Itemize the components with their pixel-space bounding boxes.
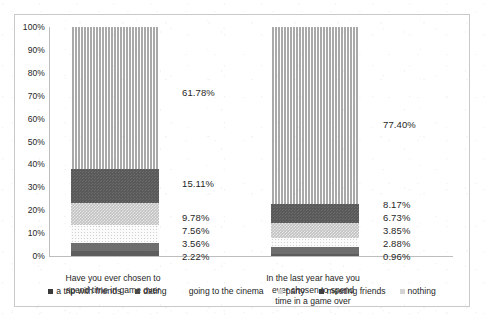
value-label-nothing-1: 77.40%: [383, 119, 416, 130]
chart-legend: a trip with friends dating going to the …: [15, 286, 469, 296]
y-tick-label-80: 80%: [28, 68, 45, 78]
value-label-nothing-0: 61.78%: [182, 87, 215, 98]
bar-segment-party[interactable]: [271, 223, 359, 238]
y-tick-label-50: 50%: [28, 137, 45, 147]
bar-segment-dating[interactable]: [71, 243, 159, 251]
y-tick-label-60: 60%: [28, 114, 45, 124]
y-tick-label-10: 10%: [28, 228, 45, 238]
legend-label-a-trip-with-friends: a trip with friends: [56, 286, 121, 296]
legend-swatch-icon-dating: [135, 289, 140, 294]
value-label-cinema-1: 3.85%: [383, 225, 410, 236]
bar-segment-nothing[interactable]: [271, 27, 359, 204]
legend-swatch-icon-meeting-friends: [319, 289, 324, 294]
bar-segment-trip-with-friends[interactable]: [271, 254, 359, 256]
category-label-1-line-0: In the last year have you: [238, 273, 388, 285]
legend-swatch-icon-going-to-the-cinema: [181, 289, 186, 294]
plot-area: 0% 10% 20% 30% 40% 50% 60% 70% 80% 90% 1…: [49, 27, 453, 256]
category-label-0-line-0: Have you ever chosen to: [38, 273, 188, 285]
value-label-party-0: 9.78%: [182, 212, 209, 223]
bar-category-1[interactable]: [271, 27, 359, 256]
legend-item-meeting-friends[interactable]: meeting friends: [319, 286, 386, 296]
bar-category-0[interactable]: [71, 27, 159, 256]
value-label-meeting-friends-0: 15.11%: [182, 178, 214, 189]
y-tick-label-100: 100%: [23, 22, 45, 32]
value-label-party-1: 6.73%: [383, 212, 410, 223]
legend-item-dating[interactable]: dating: [135, 286, 166, 296]
bar-segment-party[interactable]: [71, 203, 159, 225]
bar-segment-going-to-cinema[interactable]: [71, 225, 159, 242]
legend-label-going-to-the-cinema: going to the cinema: [189, 286, 264, 296]
value-label-cinema-0: 7.56%: [182, 225, 209, 236]
bar-segment-trip-with-friends[interactable]: [71, 251, 159, 256]
y-tick-label-70: 70%: [28, 91, 45, 101]
bar-segment-going-to-cinema[interactable]: [271, 238, 359, 247]
value-label-dating-0: 3.56%: [182, 238, 209, 249]
y-tick-label-90: 90%: [28, 45, 45, 55]
legend-label-dating: dating: [143, 286, 166, 296]
legend-item-going-to-the-cinema[interactable]: going to the cinema: [181, 286, 264, 296]
value-label-dating-1: 2.88%: [383, 238, 410, 249]
legend-label-party: party: [286, 286, 305, 296]
y-tick-label-40: 40%: [28, 159, 45, 169]
value-label-meeting-friends-1: 8.17%: [383, 199, 410, 210]
legend-swatch-icon-nothing: [400, 289, 405, 294]
y-tick-label-0: 0%: [33, 251, 46, 261]
legend-swatch-icon-party: [278, 289, 283, 294]
chart-frame: 0% 10% 20% 30% 40% 50% 60% 70% 80% 90% 1…: [14, 14, 470, 307]
legend-item-nothing[interactable]: nothing: [400, 286, 436, 296]
value-label-trip-1: 0.96%: [383, 251, 410, 262]
legend-label-meeting-friends: meeting friends: [327, 286, 386, 296]
y-tick-label-20: 20%: [28, 205, 45, 215]
legend-swatch-icon-a-trip-with-friends: [48, 289, 53, 294]
y-axis-line: [49, 27, 50, 256]
bar-segment-nothing[interactable]: [71, 27, 159, 168]
legend-item-party[interactable]: party: [278, 286, 305, 296]
legend-item-a-trip-with-friends[interactable]: a trip with friends: [48, 286, 121, 296]
y-tick-label-30: 30%: [28, 182, 45, 192]
category-label-1-line-2: time in a game over: [238, 296, 388, 308]
bar-segment-dating[interactable]: [271, 247, 359, 254]
value-label-trip-0: 2.22%: [182, 251, 209, 262]
legend-label-nothing: nothing: [408, 286, 436, 296]
bar-segment-meeting-friends[interactable]: [71, 169, 159, 204]
bar-segment-meeting-friends[interactable]: [271, 204, 359, 223]
